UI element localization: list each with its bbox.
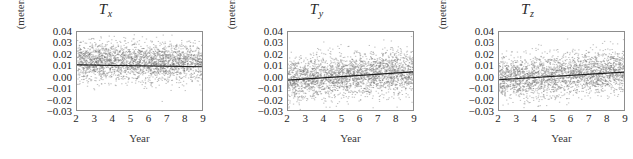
x-tick-labels: 23456789 [76,112,203,126]
plot-area-ty [287,31,414,111]
y-tick-label: −0.01 [24,83,72,94]
y-tick-label: 0.01 [24,60,72,71]
y-tick-label: 0.04 [235,26,283,37]
plot-area-tx [76,31,203,111]
plot-inner [288,32,413,110]
x-tick-label: 4 [315,112,331,124]
x-axis-label: Year [287,132,414,144]
y-tick-label: 0.03 [446,37,494,48]
panel-title-subscript: x [107,8,112,19]
x-tick-label: 8 [388,112,404,124]
y-tick-label: 0.03 [235,37,283,48]
x-tick-label: 5 [544,112,560,124]
scatter-points [499,32,624,110]
y-tick-label: −0.03 [446,106,494,117]
x-tick-label: 6 [141,112,157,124]
y-tick-label: −0.01 [235,83,283,94]
y-tick-label: 0.01 [235,60,283,71]
x-tick-label: 9 [406,112,422,124]
x-axis-label: Year [76,132,203,144]
scatter-points [288,32,413,110]
x-tick-label: 4 [526,112,542,124]
panel-title-tx: Tx [0,1,211,19]
x-tick-label: 9 [617,112,633,124]
x-tick-label: 7 [581,112,597,124]
y-tick-label: 0.00 [24,72,72,83]
x-tick-label: 8 [177,112,193,124]
x-tick-label: 5 [122,112,138,124]
panel-title-subscript: z [529,8,534,19]
x-tick-label: 9 [195,112,211,124]
x-tick-label: 6 [563,112,579,124]
y-tick-label: 0.01 [446,60,494,71]
x-tick-label: 7 [159,112,175,124]
panel-ty: Ty (meters) 0.040.030.020.010.00−0.01−0.… [211,0,422,159]
plot-inner [499,32,624,110]
trend-line [499,72,624,80]
y-tick-label: 0.04 [24,26,72,37]
y-tick-label: −0.02 [446,95,494,106]
y-tick-label: 0.03 [24,37,72,48]
panel-title-tz: Tz [422,1,633,19]
x-tick-label: 3 [508,112,524,124]
x-axis-label: Year [498,132,625,144]
x-tick-label: 2 [490,112,506,124]
x-tick-labels: 23456789 [287,112,414,126]
x-tick-label: 6 [352,112,368,124]
panel-tz: Tz (meters) 0.040.030.020.010.00−0.01−0.… [422,0,633,159]
y-tick-label: 0.04 [446,26,494,37]
scatter-panel-figure: Tx (meters) 0.040.030.020.010.00−0.01−0.… [0,0,633,159]
scatter-points [77,32,202,110]
y-tick-label: 0.02 [446,49,494,60]
y-tick-label: −0.01 [446,83,494,94]
x-tick-labels: 23456789 [498,112,625,126]
plot-area-tz [498,31,625,111]
panel-title-symbol: T [310,1,319,17]
y-tick-label: −0.02 [24,95,72,106]
panel-title-symbol: T [99,1,108,17]
x-tick-label: 7 [370,112,386,124]
panel-title-subscript: y [318,8,323,19]
y-tick-label: 0.00 [235,72,283,83]
y-tick-labels: 0.040.030.020.010.00−0.01−0.02−0.03 [24,27,72,111]
x-tick-label: 5 [333,112,349,124]
x-tick-label: 8 [599,112,615,124]
y-tick-label: 0.02 [24,49,72,60]
panel-title-ty: Ty [211,1,422,19]
panel-tx: Tx (meters) 0.040.030.020.010.00−0.01−0.… [0,0,211,159]
y-tick-label: −0.03 [24,106,72,117]
y-tick-label: 0.02 [235,49,283,60]
y-tick-label: 0.00 [446,72,494,83]
x-tick-label: 3 [297,112,313,124]
y-tick-labels: 0.040.030.020.010.00−0.01−0.02−0.03 [446,27,494,111]
x-tick-label: 4 [104,112,120,124]
y-tick-label: −0.02 [235,95,283,106]
x-tick-label: 2 [279,112,295,124]
x-tick-label: 2 [68,112,84,124]
y-tick-label: −0.03 [235,106,283,117]
y-tick-labels: 0.040.030.020.010.00−0.01−0.02−0.03 [235,27,283,111]
plot-inner [77,32,202,110]
x-tick-label: 3 [86,112,102,124]
